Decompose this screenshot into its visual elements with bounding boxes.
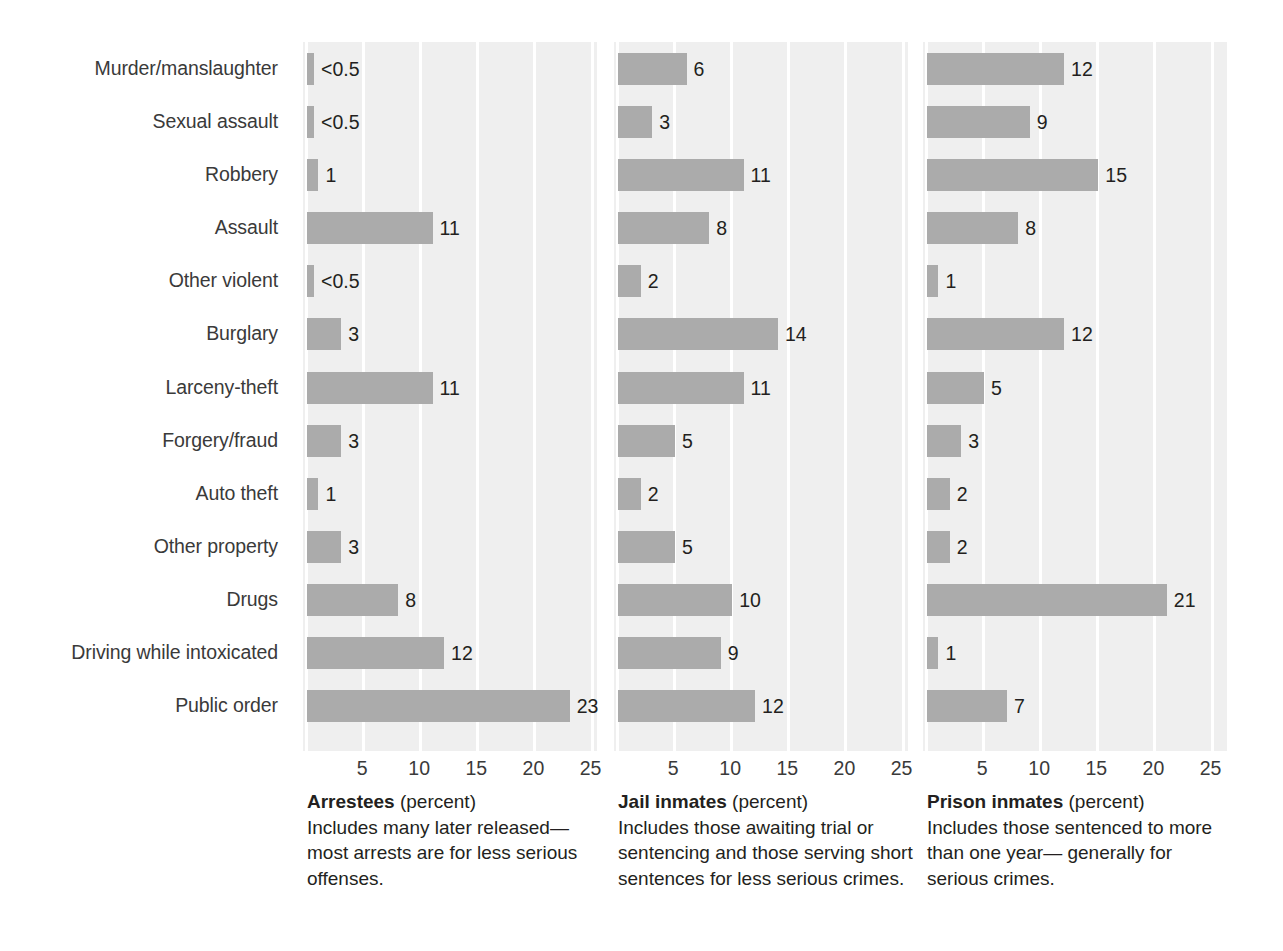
- bar-value-label: 2: [950, 478, 968, 510]
- bar: [618, 584, 732, 616]
- bar: [618, 106, 652, 138]
- bar-row: 2: [923, 520, 1227, 573]
- category-label: Auto theft: [0, 467, 292, 520]
- bar-row: 1: [303, 467, 597, 520]
- bar-row: 5: [614, 414, 908, 467]
- bar-value-label: 11: [433, 372, 460, 404]
- x-axis-tick-label: 20: [523, 757, 545, 780]
- bar: [618, 478, 641, 510]
- bar: [618, 531, 675, 563]
- bar: [307, 425, 341, 457]
- caption-body: Includes those awaiting trial or sentenc…: [618, 815, 918, 892]
- bar-value-label: 15: [1098, 159, 1127, 191]
- offense-distribution-chart: Murder/manslaughterSexual assaultRobbery…: [0, 0, 1283, 951]
- bar: [618, 425, 675, 457]
- panel-arrestees: <0.5<0.5111<0.531131381223510152025: [303, 42, 597, 785]
- x-axis-tick-label: 25: [580, 757, 602, 780]
- bar-value-label: 3: [341, 425, 359, 457]
- bar: [307, 372, 433, 404]
- bar-row: 5: [614, 520, 908, 573]
- bar-row: 3: [614, 95, 908, 148]
- bar-value-label: 2: [950, 531, 968, 563]
- bar: [618, 159, 744, 191]
- bar-row: 8: [614, 201, 908, 254]
- category-label: Other violent: [0, 254, 292, 307]
- bar-row: 3: [923, 414, 1227, 467]
- x-axis-tick-label: 15: [465, 757, 487, 780]
- x-axis-tick-label: 10: [719, 757, 741, 780]
- bar-value-label: 3: [652, 106, 670, 138]
- bar: [307, 584, 398, 616]
- bar-row: 3: [303, 414, 597, 467]
- bar-row: 23: [303, 679, 597, 732]
- bar-value-label: 23: [570, 690, 599, 722]
- bar: [927, 425, 961, 457]
- bar: [927, 584, 1167, 616]
- caption-unit: (percent): [1063, 791, 1144, 812]
- bar: [618, 265, 641, 297]
- bar-value-label: 2: [641, 478, 659, 510]
- bar-value-label: <0.5: [314, 53, 360, 85]
- bar-value-label: 6: [687, 53, 705, 85]
- bar-value-label: 5: [675, 425, 693, 457]
- x-axis-tick-label: 5: [668, 757, 679, 780]
- bar: [307, 53, 314, 85]
- bar: [927, 372, 984, 404]
- bar: [927, 478, 950, 510]
- x-axis-tick-label: 5: [977, 757, 988, 780]
- bar-value-label: 9: [1030, 106, 1048, 138]
- bar: [307, 478, 318, 510]
- bar-row: 11: [303, 361, 597, 414]
- bar-row: 3: [303, 307, 597, 360]
- bar-value-label: 8: [1018, 212, 1036, 244]
- bar-row: 9: [923, 95, 1227, 148]
- bar-row: 1: [923, 254, 1227, 307]
- bar: [927, 159, 1098, 191]
- bar-value-label: 3: [341, 318, 359, 350]
- bar: [307, 265, 314, 297]
- bar-row: 9: [614, 626, 908, 679]
- bar-value-label: <0.5: [314, 265, 360, 297]
- caption-title: Arrestees: [307, 791, 395, 812]
- bar: [927, 531, 950, 563]
- bar: [307, 212, 433, 244]
- bar-row: 12: [923, 42, 1227, 95]
- bar-row: 1: [923, 626, 1227, 679]
- bar-value-label: 12: [1064, 53, 1093, 85]
- x-axis: 510152025: [303, 751, 597, 785]
- bar-row: 11: [614, 361, 908, 414]
- category-label: Robbery: [0, 148, 292, 201]
- bar-value-label: 14: [778, 318, 807, 350]
- bar-row: 1: [303, 148, 597, 201]
- caption-jail-inmates: Jail inmates (percent)Includes those awa…: [618, 789, 918, 891]
- panel-jail-inmates: 631182141152510912510152025: [614, 42, 908, 785]
- bar-value-label: 1: [318, 159, 336, 191]
- category-label: Burglary: [0, 307, 292, 360]
- category-label: Sexual assault: [0, 95, 292, 148]
- bar-value-label: 5: [675, 531, 693, 563]
- caption-unit: (percent): [727, 791, 808, 812]
- bar-value-label: 9: [721, 637, 739, 669]
- category-label: Driving while intoxicated: [0, 626, 292, 679]
- plot-area: <0.5<0.5111<0.531131381223: [303, 42, 597, 751]
- x-axis-tick-label: 20: [834, 757, 856, 780]
- x-axis-tick-label: 10: [408, 757, 430, 780]
- x-axis-tick-label: 10: [1028, 757, 1050, 780]
- bar-value-label: <0.5: [314, 106, 360, 138]
- bar-value-label: 5: [984, 372, 1002, 404]
- caption-title: Jail inmates: [618, 791, 727, 812]
- bar-value-label: 21: [1167, 584, 1196, 616]
- category-label: Public order: [0, 679, 292, 732]
- bar-row: 8: [303, 573, 597, 626]
- bar: [307, 106, 314, 138]
- plot-area: 12915811253222117: [923, 42, 1227, 751]
- bar-value-label: 1: [938, 265, 956, 297]
- x-axis-tick-label: 15: [1085, 757, 1107, 780]
- bar: [618, 372, 744, 404]
- category-label: Forgery/fraud: [0, 414, 292, 467]
- x-axis-tick-label: 15: [776, 757, 798, 780]
- bar-row: 12: [303, 626, 597, 679]
- bar-value-label: 3: [961, 425, 979, 457]
- bar-value-label: 1: [938, 637, 956, 669]
- bar-row: 2: [923, 467, 1227, 520]
